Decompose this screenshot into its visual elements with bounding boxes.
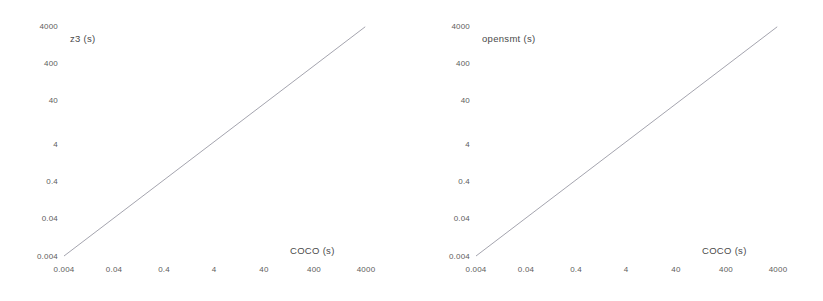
y-tick-label: 40 [49, 96, 58, 105]
y-tick-label: 0.4 [458, 177, 470, 186]
x-tick-label: 40 [671, 265, 680, 274]
x-tick-label: 400 [307, 265, 321, 274]
x-axis-title: COCO (s) [290, 245, 335, 256]
x-tick-label: 4 [212, 265, 217, 274]
x-tick-label: 0.004 [53, 265, 74, 274]
x-tick-label: 40 [259, 265, 268, 274]
x-tick-label: 0.004 [465, 265, 486, 274]
plot-area-z3 [0, 0, 411, 301]
x-tick-label: 0.04 [518, 265, 534, 274]
x-tick-label: 4000 [769, 265, 788, 274]
y-tick-label: 4 [465, 140, 470, 149]
y-tick-label: 400 [456, 59, 470, 68]
y-axis-title: opensmt (s) [482, 33, 535, 44]
y-tick-label: 0.004 [449, 252, 470, 261]
y-tick-label: 400 [44, 59, 58, 68]
y-tick-label: 0.004 [37, 252, 58, 261]
identity-reference-line [476, 27, 777, 256]
x-tick-label: 0.4 [158, 265, 170, 274]
x-axis-title: COCO (s) [702, 245, 747, 256]
y-axis-title: z3 (s) [70, 33, 96, 44]
y-tick-label: 4 [53, 140, 58, 149]
scatter-plot-figure: 4000 400 40 4 0.4 0.04 0.004 0.004 0.04 … [0, 0, 823, 301]
chart-panel-z3: 4000 400 40 4 0.4 0.04 0.004 0.004 0.04 … [0, 0, 411, 301]
y-tick-label: 40 [461, 96, 470, 105]
chart-panel-opensmt: 4000 400 40 4 0.4 0.04 0.004 0.004 0.04 … [412, 0, 823, 301]
scatter-point-group [75, 1, 315, 227]
x-tick-label: 4 [624, 265, 629, 274]
identity-reference-line [64, 27, 365, 256]
plot-area-opensmt [412, 0, 823, 301]
x-tick-label: 0.4 [570, 265, 582, 274]
y-tick-label: 0.4 [46, 177, 58, 186]
x-tick-label: 0.04 [106, 265, 122, 274]
scatter-canvas-opensmt [412, 0, 823, 301]
y-tick-label: 0.04 [454, 214, 470, 223]
y-tick-label: 4000 [451, 22, 470, 31]
scatter-canvas-z3 [0, 0, 411, 301]
y-tick-label: 0.04 [42, 214, 58, 223]
x-tick-label: 4000 [357, 265, 376, 274]
x-tick-label: 400 [719, 265, 733, 274]
y-tick-label: 4000 [39, 22, 58, 31]
